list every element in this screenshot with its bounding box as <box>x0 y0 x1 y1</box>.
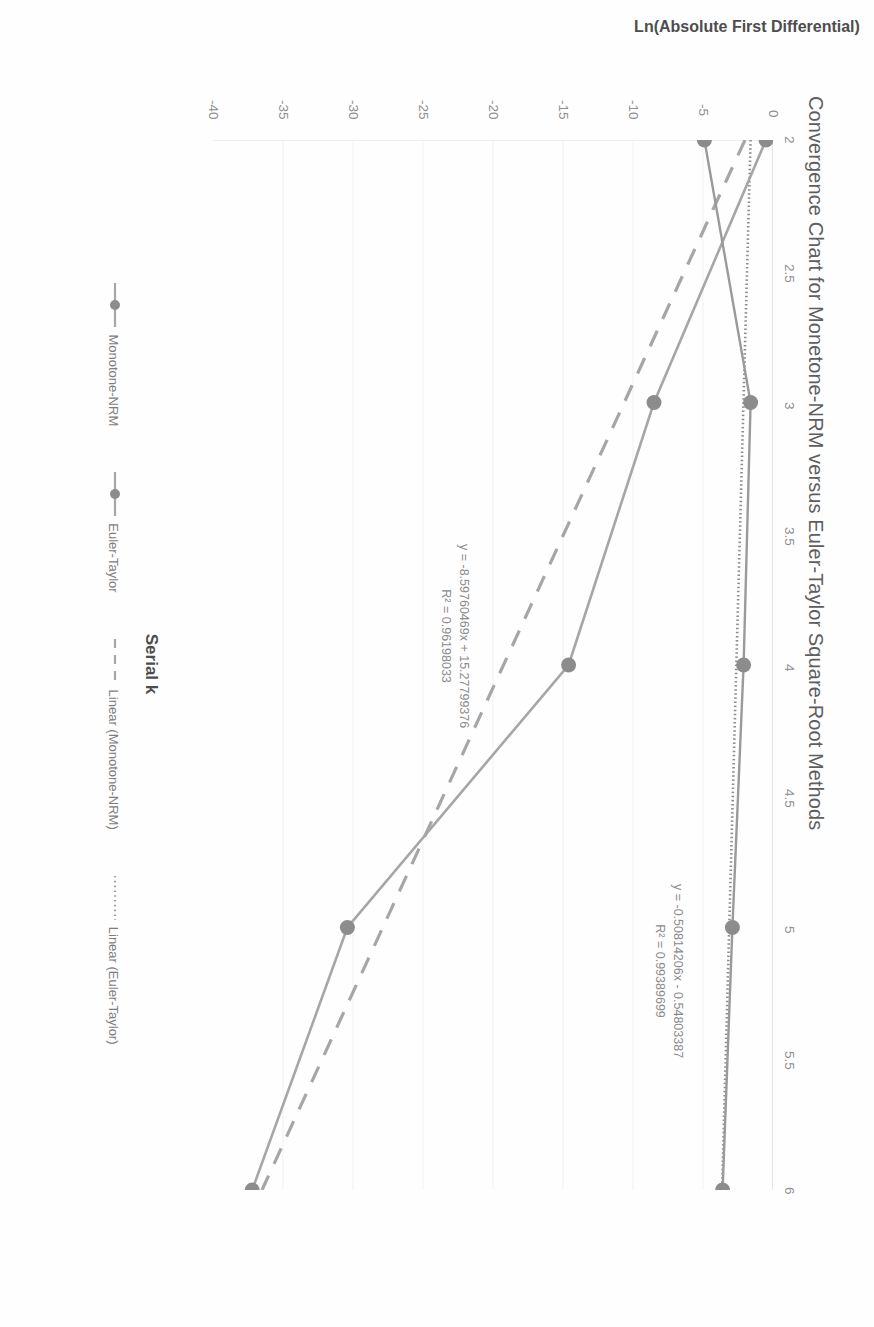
solid-line-marker-icon <box>106 472 121 516</box>
chart-svg <box>213 140 773 1190</box>
chart-legend: Monotone-NRM Euler-Taylor <box>106 44 121 1284</box>
series-line-monotone-nrm <box>252 140 766 1190</box>
ytick-label-2: -10 <box>626 100 641 120</box>
rotated-chart-container: Convergence Chart for Monetone-NRM versu… <box>37 44 837 1284</box>
ytick-label-1: -5 <box>696 104 711 116</box>
y-axis-title: Ln(Absolute First Differential) <box>537 18 874 36</box>
legend-item-linear-euler-taylor[interactable]: Linear (Euler-Taylor) <box>106 875 121 1044</box>
solid-line-marker-icon <box>106 283 121 327</box>
annotation-euler-taylor-fit: y = -0.50814206x - 0.54803387 R² = 0.993… <box>651 884 687 1058</box>
chart-area: Convergence Chart for Monetone-NRM versu… <box>37 44 837 1284</box>
legend-label-euler-taylor: Euler-Taylor <box>106 523 121 592</box>
ytick-label-0: 0 <box>766 110 781 118</box>
xtick-label-1: 2.5 <box>782 264 797 283</box>
xtick-label-2: 3 <box>782 402 797 410</box>
scanned-chart-page: Convergence Chart for Monetone-NRM versu… <box>0 0 874 1327</box>
xtick-label-6: 5 <box>782 926 797 934</box>
plot-region: y = -0.50814206x - 0.54803387 R² = 0.993… <box>213 140 773 1190</box>
ytick-label-5: -25 <box>416 100 431 120</box>
legend-item-linear-monotone-nrm[interactable]: Linear (Monotone-NRM) <box>106 638 121 829</box>
xtick-label-3: 3.5 <box>782 527 797 546</box>
legend-label-linear-euler-taylor: Linear (Euler-Taylor) <box>106 926 121 1044</box>
legend-item-euler-taylor[interactable]: Euler-Taylor <box>106 472 121 592</box>
annotation-euler-taylor-equation: y = -0.50814206x - 0.54803387 <box>669 884 687 1058</box>
xtick-label-5: 4.5 <box>782 789 797 808</box>
legend-item-monotone-nrm[interactable]: Monotone-NRM <box>106 283 121 426</box>
xtick-label-8: 6 <box>782 1187 797 1195</box>
ytick-label-3: -15 <box>556 100 571 120</box>
xtick-label-4: 4 <box>782 664 797 672</box>
legend-label-monotone-nrm: Monotone-NRM <box>106 334 121 426</box>
x-axis-title: Serial k <box>141 44 161 1284</box>
annotation-monotone-nrm-r2: R² = 0.96198033 <box>437 544 455 728</box>
annotation-euler-taylor-r2: R² = 0.99389699 <box>651 884 669 1058</box>
ytick-label-6: -30 <box>346 100 361 120</box>
annotation-monotone-nrm-equation: y = -8.59760469x + 15.27799376 <box>455 544 473 728</box>
ytick-label-4: -20 <box>486 100 501 120</box>
dashed-line-icon <box>106 638 121 682</box>
ytick-label-7: -35 <box>276 100 291 120</box>
ytick-label-8: -40 <box>206 100 221 120</box>
xtick-label-0: 2 <box>782 136 797 144</box>
annotation-monotone-nrm-fit: y = -8.59760469x + 15.27799376 R² = 0.96… <box>437 544 473 728</box>
legend-label-linear-monotone-nrm: Linear (Monotone-NRM) <box>106 689 121 829</box>
series-markers-monotone-nrm <box>245 140 773 1190</box>
dotted-line-icon <box>106 875 121 919</box>
xtick-label-7: 5.5 <box>782 1051 797 1070</box>
chart-title: Convergence Chart for Monetone-NRM versu… <box>804 44 827 1284</box>
